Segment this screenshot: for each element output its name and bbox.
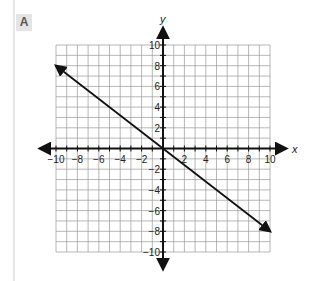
svg-text:−2: −2	[136, 154, 148, 165]
svg-text:−10: −10	[143, 247, 160, 258]
svg-text:−8: −8	[149, 226, 161, 237]
svg-text:10: 10	[264, 154, 276, 165]
svg-text:2: 2	[154, 123, 160, 134]
svg-text:y: y	[159, 13, 167, 25]
svg-text:−4: −4	[114, 154, 126, 165]
svg-text:8: 8	[246, 154, 252, 165]
svg-text:−6: −6	[149, 206, 161, 217]
svg-text:−2: −2	[149, 164, 161, 175]
svg-text:6: 6	[154, 81, 160, 92]
svg-text:8: 8	[154, 61, 160, 72]
svg-text:6: 6	[224, 154, 230, 165]
svg-text:−4: −4	[149, 185, 161, 196]
svg-text:x: x	[291, 143, 298, 155]
coordinate-plane: −10−8−6−4−2246810108642−2−4−6−8−10xy	[0, 0, 315, 281]
svg-text:4: 4	[203, 154, 209, 165]
svg-text:−8: −8	[72, 154, 84, 165]
svg-text:−6: −6	[93, 154, 105, 165]
svg-text:−10: −10	[48, 154, 65, 165]
svg-text:4: 4	[154, 102, 160, 113]
svg-text:10: 10	[149, 40, 161, 51]
